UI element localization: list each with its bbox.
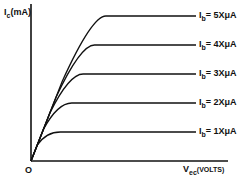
x-axis-label: Vec(VOLTS) <box>183 164 224 175</box>
series-label-ib-3: Ib= 3XμA <box>199 68 237 79</box>
series-label-ib-5: Ib= 5XμA <box>199 10 237 21</box>
curve-ib-3 <box>31 74 196 161</box>
series-label-ib-1: Ib= 1XμA <box>199 126 237 137</box>
transistor-characteristic-chart <box>0 0 247 180</box>
series-label-ib-4: Ib= 4XμA <box>199 39 237 50</box>
curve-ib-1 <box>31 132 196 161</box>
y-axis-label: Ic(mA) <box>4 7 31 18</box>
series-label-ib-2: Ib= 2XμA <box>199 97 237 108</box>
origin-label: O <box>25 165 32 175</box>
curve-ib-5 <box>31 16 196 161</box>
